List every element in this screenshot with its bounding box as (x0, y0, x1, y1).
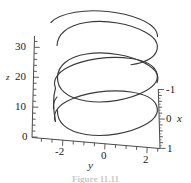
helix-segment-1 (57, 106, 157, 136)
x-tick-label-0: 0 (166, 113, 172, 124)
z-axis-line (32, 36, 35, 138)
y-axis-line (32, 138, 160, 149)
z-tick-label-20: 20 (15, 71, 26, 82)
x-tick-label-neg1: -1 (166, 84, 175, 95)
plot-canvas (0, 0, 191, 183)
x-tick-label-1: 1 (167, 143, 173, 154)
z-axis-title: z (6, 73, 10, 82)
helix-segment-3 (54, 57, 131, 121)
y-tick-label-neg2: -2 (55, 146, 64, 157)
z-tick-label-0: 0 (22, 131, 28, 142)
y-tick-label-0: 0 (101, 150, 107, 161)
x-axis-title: x (177, 113, 182, 124)
y-tick-label-2: 2 (143, 154, 149, 165)
z-tick-label-10: 10 (15, 101, 26, 112)
figure-3d-helix-plot: 0 10 20 30 z -2 0 2 y -1 0 1 x Figure 11… (0, 0, 191, 183)
helix-segment-top-end (51, 11, 158, 37)
figure-caption: Figure 11.11 (0, 174, 191, 183)
y-axis-title: y (88, 160, 93, 171)
z-tick-label-30: 30 (15, 41, 26, 52)
helix-curve (51, 11, 158, 136)
